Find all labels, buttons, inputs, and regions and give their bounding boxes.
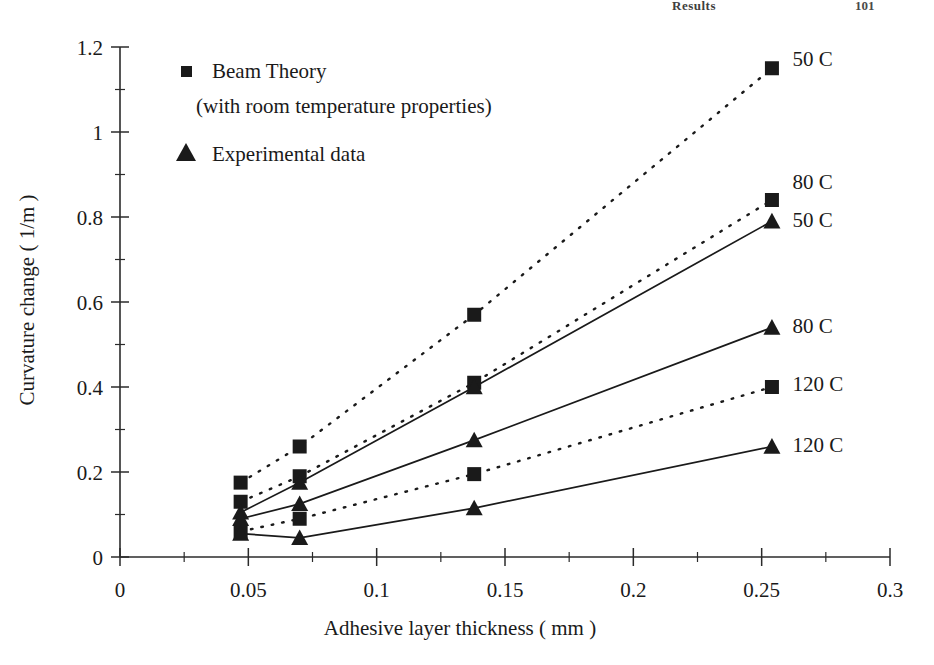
triangle-marker-icon bbox=[466, 432, 483, 448]
triangle-marker-icon bbox=[291, 495, 308, 511]
x-tick-label: 0.15 bbox=[487, 578, 524, 602]
legend-label-experimental-data: Experimental data bbox=[212, 142, 366, 166]
series-label-1: 80 C bbox=[792, 170, 832, 194]
x-tick-label: 0.25 bbox=[743, 578, 780, 602]
series-lines bbox=[241, 68, 772, 538]
series-line-3 bbox=[241, 328, 772, 519]
series-markers bbox=[232, 61, 780, 545]
square-marker-icon bbox=[765, 61, 779, 75]
legend-label-beam-theory: Beam Theory bbox=[212, 59, 327, 83]
y-tick-label: 0.6 bbox=[77, 291, 103, 315]
x-tick-label: 0.1 bbox=[364, 578, 390, 602]
x-tick-label: 0.05 bbox=[230, 578, 267, 602]
square-marker-icon bbox=[765, 193, 779, 207]
x-tick-label: 0.2 bbox=[620, 578, 646, 602]
series-line-2 bbox=[241, 221, 772, 512]
square-marker-icon bbox=[467, 308, 481, 322]
series-labels: 50 C80 C50 C80 C120 C120 C bbox=[792, 47, 843, 458]
y-tick-label: 1.2 bbox=[77, 36, 103, 60]
series-label-3: 80 C bbox=[792, 314, 832, 338]
x-tick-label: 0 bbox=[115, 578, 126, 602]
series-line-5 bbox=[241, 447, 772, 538]
series-label-4: 120 C bbox=[792, 372, 843, 396]
x-tick-label: 0.3 bbox=[877, 578, 903, 602]
y-tick-label: 0.8 bbox=[77, 206, 103, 230]
chart-legend: Beam Theory (with room temperature prope… bbox=[176, 59, 492, 166]
y-tick-label: 0.4 bbox=[77, 376, 104, 400]
legend-triangle-marker-icon bbox=[176, 143, 196, 161]
y-tick-label: 0.2 bbox=[77, 461, 103, 485]
triangle-marker-icon bbox=[763, 319, 780, 335]
series-label-0: 50 C bbox=[792, 47, 832, 71]
x-axis-title: Adhesive layer thickness ( mm ) bbox=[324, 616, 596, 640]
triangle-marker-icon bbox=[763, 438, 780, 454]
triangle-marker-icon bbox=[763, 213, 780, 229]
series-line-1 bbox=[241, 200, 772, 502]
legend-square-marker-icon bbox=[181, 66, 192, 77]
square-marker-icon bbox=[467, 467, 481, 481]
square-marker-icon bbox=[293, 512, 307, 526]
series-label-2: 50 C bbox=[792, 208, 832, 232]
square-marker-icon bbox=[765, 380, 779, 394]
square-marker-icon bbox=[234, 476, 248, 490]
square-marker-icon bbox=[293, 440, 307, 454]
y-axis-tick-labels: 00.20.40.60.811.2 bbox=[77, 36, 104, 570]
series-line-0 bbox=[241, 68, 772, 482]
series-label-5: 120 C bbox=[792, 433, 843, 457]
y-tick-label: 0 bbox=[93, 546, 104, 570]
chart-canvas: 00.050.10.150.20.250.3 00.20.40.60.811.2… bbox=[0, 0, 934, 665]
x-axis-tick-labels: 00.050.10.150.20.250.3 bbox=[115, 578, 903, 602]
legend-sublabel-beam-theory: (with room temperature properties) bbox=[196, 94, 492, 118]
curvature-change-chart: 00.050.10.150.20.250.3 00.20.40.60.811.2… bbox=[0, 0, 934, 665]
series-line-4 bbox=[241, 387, 772, 532]
y-axis-title: Curvature change ( 1/m ) bbox=[15, 194, 39, 405]
y-tick-label: 1 bbox=[93, 121, 104, 145]
